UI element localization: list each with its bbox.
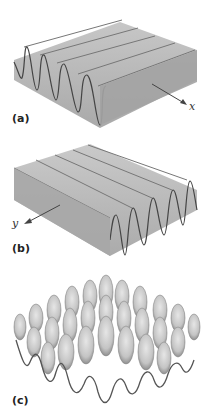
y-axis-label: y bbox=[12, 217, 18, 230]
panel-a-surface bbox=[0, 0, 209, 140]
panel-b-surface bbox=[0, 130, 209, 270]
x-axis-label: x bbox=[189, 100, 195, 113]
egg-crate-bumps bbox=[14, 275, 200, 374]
panel-b-label: (b) bbox=[12, 242, 30, 255]
wave-ridges-a bbox=[14, 20, 197, 128]
panel-c-surface bbox=[0, 270, 209, 414]
wave-ridges-b bbox=[14, 144, 197, 256]
panel-a-label: (a) bbox=[12, 112, 29, 125]
panel-c-label: (c) bbox=[12, 394, 29, 407]
